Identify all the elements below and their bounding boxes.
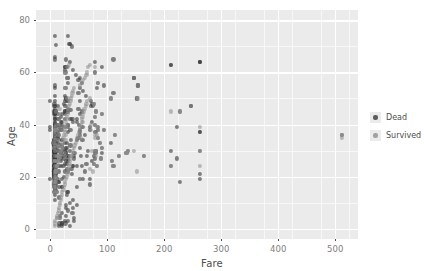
- data-point: [95, 86, 99, 90]
- gridline: [150, 10, 151, 239]
- data-point: [68, 128, 72, 132]
- data-point: [142, 154, 146, 158]
- legend-item-dead[interactable]: Dead: [370, 112, 421, 123]
- data-point: [101, 128, 105, 132]
- gridline: [36, 46, 358, 47]
- data-point: [178, 109, 182, 113]
- data-point: [65, 193, 69, 197]
- x-tick-label: 400: [270, 244, 286, 254]
- x-tick-label: 100: [99, 244, 115, 254]
- data-point: [198, 177, 202, 181]
- data-point: [198, 172, 202, 176]
- legend-item-surv[interactable]: Survived: [370, 130, 421, 141]
- data-point: [198, 130, 202, 134]
- data-point: [66, 81, 70, 85]
- y-tick-label: 40: [14, 120, 30, 130]
- data-point: [85, 154, 89, 158]
- gridline: [292, 10, 293, 239]
- x-tick-mark: [164, 239, 165, 241]
- data-point: [79, 164, 83, 168]
- data-point: [100, 112, 104, 116]
- data-point: [136, 83, 140, 87]
- data-point: [75, 203, 79, 207]
- legend-label: Dead: [386, 113, 407, 122]
- data-point: [72, 86, 76, 90]
- data-point: [99, 156, 103, 160]
- data-point: [96, 135, 100, 139]
- data-point: [83, 133, 87, 137]
- data-point: [136, 96, 140, 100]
- data-point: [69, 138, 73, 142]
- legend-key-swatch: [370, 112, 381, 123]
- data-point: [93, 70, 97, 74]
- data-point: [111, 91, 115, 95]
- data-point: [75, 185, 79, 189]
- data-point: [85, 70, 89, 74]
- legend-label: Survived: [386, 131, 421, 140]
- legend-dot-icon: [373, 133, 377, 137]
- x-tick-mark: [278, 239, 279, 241]
- data-point: [198, 125, 202, 129]
- gridline: [349, 10, 350, 239]
- data-point: [78, 154, 82, 158]
- data-point: [169, 148, 173, 152]
- data-point: [169, 63, 173, 67]
- x-tick-label: 0: [48, 244, 53, 254]
- data-point: [117, 154, 121, 158]
- legend-key-swatch: [370, 130, 381, 141]
- data-point: [169, 109, 173, 113]
- data-point: [70, 172, 74, 176]
- data-point: [81, 89, 85, 93]
- data-point: [75, 164, 79, 168]
- gridline: [36, 125, 358, 126]
- data-point: [111, 57, 115, 61]
- data-point: [101, 83, 105, 87]
- data-point: [109, 96, 113, 100]
- data-point: [198, 60, 202, 64]
- y-tick-label: 80: [14, 15, 30, 25]
- data-point: [66, 34, 70, 38]
- x-axis-title: Fare: [0, 258, 424, 269]
- data-point: [71, 198, 75, 202]
- data-point: [54, 190, 58, 194]
- data-point: [132, 76, 136, 80]
- legend-dot-icon: [373, 115, 377, 119]
- data-point: [97, 141, 101, 145]
- y-tick-mark: [34, 229, 36, 230]
- data-point: [198, 148, 202, 152]
- y-tick-label: 20: [14, 172, 30, 182]
- data-point: [189, 104, 193, 108]
- data-point: [198, 164, 202, 168]
- data-point: [64, 213, 68, 217]
- x-tick-mark: [50, 239, 51, 241]
- data-point: [78, 146, 82, 150]
- y-tick-mark: [34, 72, 36, 73]
- data-point: [78, 99, 82, 103]
- gridline: [321, 10, 322, 239]
- gridline: [207, 10, 208, 239]
- data-point: [94, 109, 98, 113]
- x-tick-mark: [335, 239, 336, 241]
- data-point: [135, 169, 139, 173]
- data-point: [93, 115, 97, 119]
- legend: DeadSurvived: [370, 112, 421, 141]
- gridline: [36, 20, 358, 21]
- x-tick-label: 500: [327, 244, 343, 254]
- gridline: [36, 98, 358, 99]
- x-tick-label: 200: [156, 244, 172, 254]
- data-point: [93, 60, 97, 64]
- data-point: [96, 128, 100, 132]
- gridline: [36, 229, 358, 230]
- data-point: [84, 161, 88, 165]
- data-point: [83, 169, 87, 173]
- data-point: [76, 91, 80, 95]
- data-point: [67, 63, 71, 67]
- y-tick-label: 60: [14, 67, 30, 77]
- data-point: [57, 107, 61, 111]
- data-point: [113, 133, 117, 137]
- gridline: [178, 10, 179, 239]
- data-point: [53, 34, 57, 38]
- data-point: [68, 224, 72, 228]
- data-point: [99, 146, 103, 150]
- plot-panel: [36, 10, 358, 239]
